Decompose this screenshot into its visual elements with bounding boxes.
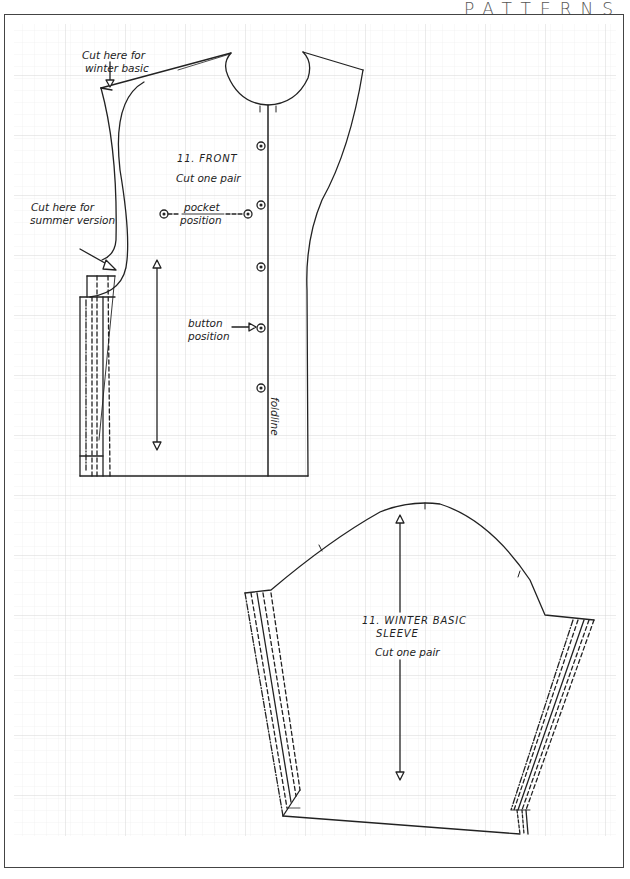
foldline-label: foldline (269, 397, 281, 436)
cut-summer-label-line1: Cut here for (31, 201, 95, 213)
sleeve-title-line1: 11. WINTER BASIC (362, 615, 467, 626)
sleeve-title-line2: SLEEVE (376, 628, 419, 639)
pocket-label-line2: position (179, 214, 222, 226)
front-piece-title: 11. FRONT (177, 153, 238, 164)
button-label-line1: button (188, 317, 223, 329)
cut-winter-label-line2: winter basic (85, 62, 149, 74)
cut-summer-label-line2: summer version (30, 214, 115, 226)
graph-grid (14, 24, 616, 836)
pattern-drawing: Cut here for winter basic 11. FRONT Cut … (0, 0, 630, 879)
pocket-label-line1: pocket (183, 201, 220, 213)
button-label-line2: position (187, 330, 230, 342)
sleeve-instruction: Cut one pair (375, 646, 440, 658)
cut-winter-label-line1: Cut here for (82, 49, 146, 61)
front-piece-instruction: Cut one pair (176, 172, 241, 184)
